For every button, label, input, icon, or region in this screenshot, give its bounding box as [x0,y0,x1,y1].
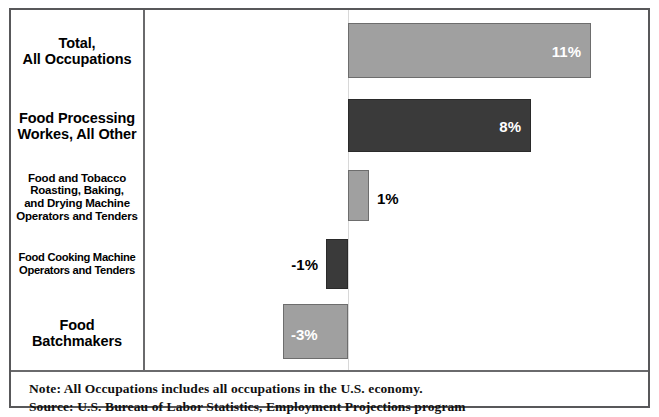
category-label-column: Total, All Occupations Food Processing W… [11,10,145,370]
bar-row: -1% [145,234,648,294]
bar-value-label: 1% [377,189,399,206]
bar-food-and-tobacco-roasting-baking-drying[interactable] [348,170,369,221]
footnote-source: Source: U.S. Bureau of Labor Statistics,… [29,399,648,415]
bars-plot-column: 11% 8% 1% -1% -3% [145,10,648,370]
category-label: Food Processing Workes, All Other [13,110,141,142]
bar-value-label: -3% [291,326,318,343]
category-label: Food and Tobacco Roasting, Baking, and D… [13,172,141,224]
bar-row: 8% [145,91,648,161]
category-label-row: Food Cooking Machine Operators and Tende… [11,234,143,294]
bar-value-label: -1% [265,256,318,273]
category-label-row: Food Batchmakers [11,294,143,372]
footnote-note: Note: All Occupations includes all occup… [29,381,648,397]
category-label-row: Food and Tobacco Roasting, Baking, and D… [11,161,143,234]
bar-value-label: 8% [348,118,521,135]
chart-figure: Total, All Occupations Food Processing W… [9,8,650,408]
bar-row: 11% [145,10,648,91]
category-label: Food Cooking Machine Operators and Tende… [13,251,141,276]
bar-row: 1% [145,161,648,234]
chart-footnote: Note: All Occupations includes all occup… [11,372,648,406]
category-label-row: Food Processing Workes, All Other [11,91,143,161]
category-label: Food Batchmakers [13,317,141,349]
bar-row: -3% [145,294,648,372]
category-label-row: Total, All Occupations [11,10,143,91]
bar-value-label: 11% [348,42,581,59]
chart-plot-region: Total, All Occupations Food Processing W… [11,10,648,372]
bar-food-cooking-machine-operators[interactable] [326,239,348,289]
category-label: Total, All Occupations [13,34,141,66]
